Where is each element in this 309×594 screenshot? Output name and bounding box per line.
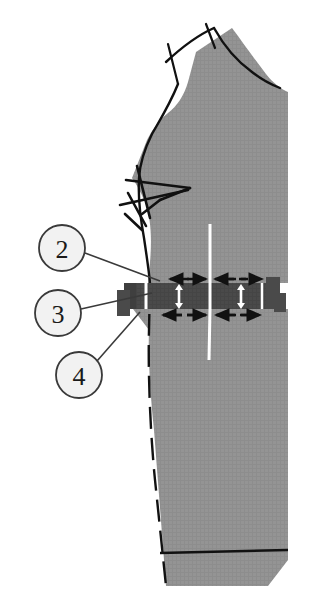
callout-2[interactable]: 2 xyxy=(39,225,85,271)
spread-band-fill xyxy=(133,283,266,309)
callout-2-label: 2 xyxy=(56,235,69,264)
band-tab-left-lower xyxy=(117,290,130,316)
callout-3[interactable]: 3 xyxy=(35,290,81,336)
grainline-lower xyxy=(209,309,210,360)
side-seam-white-left xyxy=(96,196,133,283)
callout-4-label: 4 xyxy=(73,362,86,391)
band-tab-right-hook xyxy=(272,293,286,312)
callout-4[interactable]: 4 xyxy=(56,352,102,398)
callout-3-label: 3 xyxy=(52,300,65,329)
leader-line-4 xyxy=(97,312,140,361)
pattern-diagram: 2 3 4 xyxy=(0,0,309,594)
shoulder-tick xyxy=(168,44,178,84)
diagram-canvas: 2 3 4 xyxy=(0,0,309,594)
